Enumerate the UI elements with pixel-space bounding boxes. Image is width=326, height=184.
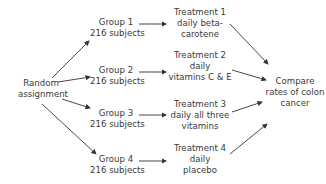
arrow-random-group3 [62, 99, 90, 108]
treatment-desc: placebo [167, 165, 233, 176]
group-size: 216 subjects [90, 76, 142, 87]
assignment-label: assignment [18, 89, 64, 100]
treatment-title: Treatment 1 [167, 7, 233, 18]
compare-outcome-node: Compare rates of colon cancer [264, 76, 326, 109]
treatment-desc: vitamins C & E [167, 72, 233, 83]
treatment-desc: daily all three [167, 110, 233, 121]
treatment-title: Treatment 2 [167, 50, 233, 61]
group-3-node: Group 3 216 subjects [90, 108, 142, 130]
treatment-desc: daily [167, 154, 233, 165]
group-4-node: Group 4 216 subjects [90, 154, 142, 176]
treatment-desc: vitamins [167, 121, 233, 132]
random-label: Random [18, 78, 64, 89]
group-name: Group 4 [90, 154, 142, 165]
arrow-random-group4 [42, 104, 96, 154]
group-name: Group 2 [90, 65, 142, 76]
treatment-desc: daily [167, 61, 233, 72]
random-assignment-node: Random assignment [18, 78, 64, 100]
group-size: 216 subjects [90, 28, 142, 39]
treatment-4-node: Treatment 4 daily placebo [167, 143, 233, 176]
treatment-desc: carotene [167, 29, 233, 40]
arrow-treatment1-compare [230, 24, 268, 64]
treatment-title: Treatment 4 [167, 143, 233, 154]
treatment-desc: daily beta- [167, 18, 233, 29]
group-1-node: Group 1 216 subjects [90, 17, 142, 39]
treatment-2-node: Treatment 2 daily vitamins C & E [167, 50, 233, 83]
group-name: Group 1 [90, 17, 142, 28]
arrow-treatment2-compare [232, 70, 266, 80]
outcome-line: Compare [264, 76, 326, 87]
group-size: 216 subjects [90, 119, 142, 130]
arrow-random-group1 [52, 41, 89, 78]
treatment-3-node: Treatment 3 daily all three vitamins [167, 99, 233, 132]
group-size: 216 subjects [90, 165, 142, 176]
treatment-1-node: Treatment 1 daily beta- carotene [167, 7, 233, 40]
outcome-line: cancer [264, 98, 326, 109]
treatment-title: Treatment 3 [167, 99, 233, 110]
outcome-line: rates of colon [264, 87, 326, 98]
arrow-treatment3-compare [232, 102, 262, 112]
group-name: Group 3 [90, 108, 142, 119]
group-2-node: Group 2 216 subjects [90, 65, 142, 87]
arrow-treatment4-compare [230, 124, 267, 154]
